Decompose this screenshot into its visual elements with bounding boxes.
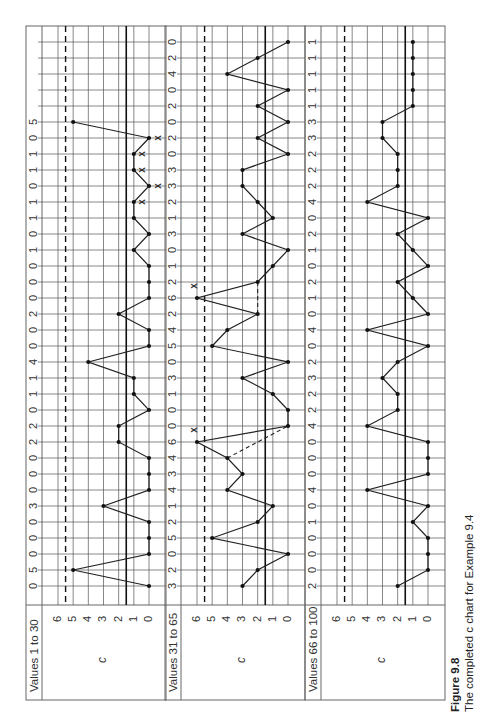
data-point — [147, 552, 151, 556]
data-point — [411, 296, 415, 300]
excluded-point-marker: x — [136, 151, 147, 157]
data-point — [117, 424, 121, 428]
data-point — [195, 440, 199, 444]
data-point — [286, 408, 290, 412]
sample-value-label: 1 — [306, 71, 318, 77]
sample-value-label: 4 — [166, 327, 178, 333]
sample-value-label: 0 — [166, 247, 178, 253]
data-point — [411, 40, 415, 44]
sample-value-label: 2 — [306, 231, 318, 237]
data-point — [411, 72, 415, 76]
sample-value-label: 2 — [27, 311, 39, 317]
data-point — [365, 488, 369, 492]
sample-value-label: 1 — [27, 375, 39, 381]
sample-value-label: 0 — [27, 135, 39, 141]
sample-value-label: 2 — [306, 359, 318, 365]
data-point — [132, 248, 136, 252]
data-point — [225, 72, 229, 76]
figure-caption: Figure 9.8 The completed c chart for Exa… — [448, 514, 476, 712]
data-point — [426, 440, 430, 444]
sample-value-label: 4 — [306, 327, 318, 333]
sample-value-label: 2 — [306, 391, 318, 397]
sample-value-label: 2 — [306, 279, 318, 285]
sample-value-label: 0 — [306, 503, 318, 509]
sample-value-label: 3 — [166, 231, 178, 237]
y-tick-label: 1 — [127, 616, 139, 622]
data-point — [426, 536, 430, 540]
data-point — [195, 296, 199, 300]
data-point — [286, 552, 290, 556]
sample-value-label: 0 — [27, 471, 39, 477]
excluded-point-marker: x — [188, 283, 199, 289]
y-axis-label: c — [95, 657, 109, 663]
sample-value-label: 0 — [27, 455, 39, 461]
data-point — [426, 472, 430, 476]
sample-value-label: 0 — [306, 343, 318, 349]
data-point — [132, 152, 136, 156]
y-tick-label: 5 — [345, 616, 357, 622]
data-series-line — [73, 122, 149, 586]
data-point — [240, 584, 244, 588]
sample-value-label: 3 — [166, 167, 178, 173]
data-point — [256, 56, 260, 60]
data-point — [225, 328, 229, 332]
data-point — [426, 504, 430, 508]
excluded-point-marker: x — [188, 427, 199, 433]
sample-value-label: 6 — [166, 439, 178, 445]
sample-value-label: 1 — [27, 391, 39, 397]
sample-value-label: 0 — [306, 215, 318, 221]
sample-value-label: 1 — [306, 247, 318, 253]
data-point — [147, 584, 151, 588]
data-point — [286, 360, 290, 364]
excluded-point-marker: x — [152, 135, 163, 141]
data-point — [286, 88, 290, 92]
sample-value-label: 0 — [27, 183, 39, 189]
data-point — [147, 536, 151, 540]
data-point — [411, 248, 415, 252]
sample-value-label: 0 — [166, 551, 178, 557]
y-tick-label: 0 — [421, 616, 433, 622]
y-tick-label: 2 — [391, 616, 403, 622]
y-tick-label: 2 — [112, 616, 124, 622]
sample-value-label: 0 — [166, 407, 178, 413]
sample-value-label: 2 — [27, 439, 39, 445]
sample-value-label: 1 — [27, 151, 39, 157]
y-tick-label: 2 — [251, 616, 263, 622]
sample-value-label: 1 — [166, 215, 178, 221]
sample-value-label: 1 — [166, 503, 178, 509]
data-point — [286, 424, 290, 428]
data-point — [380, 376, 384, 380]
sample-value-label: 0 — [166, 87, 178, 93]
data-point — [396, 584, 400, 588]
y-tick-label: 4 — [81, 616, 93, 622]
sample-value-label: 3 — [306, 135, 318, 141]
sample-value-label: 4 — [166, 455, 178, 461]
sample-value-label: 6 — [166, 295, 178, 301]
data-point — [256, 568, 260, 572]
sample-value-label: 5 — [27, 119, 39, 125]
sample-value-label: 1 — [27, 215, 39, 221]
data-point — [426, 552, 430, 556]
sample-value-label: 0 — [306, 535, 318, 541]
data-point — [271, 264, 275, 268]
data-point — [240, 472, 244, 476]
data-point — [396, 152, 400, 156]
sample-value-label: 0 — [27, 551, 39, 557]
sample-value-label: 1 — [166, 391, 178, 397]
sample-value-label: 5 — [27, 567, 39, 573]
data-point — [147, 136, 151, 140]
sample-value-label: 3 — [166, 183, 178, 189]
excluded-point-marker: x — [152, 183, 163, 189]
sample-value-label: 0 — [27, 519, 39, 525]
data-point — [132, 392, 136, 396]
data-point — [411, 104, 415, 108]
sample-value-label: 2 — [166, 519, 178, 525]
figure-description: The completed c chart for Example 9.4 — [462, 514, 476, 712]
data-point — [411, 520, 415, 524]
sample-value-label: 3 — [166, 583, 178, 589]
sample-value-label: 0 — [27, 583, 39, 589]
data-point — [117, 440, 121, 444]
sample-value-label: 1 — [27, 167, 39, 173]
sample-value-label: 0 — [306, 439, 318, 445]
data-point — [396, 184, 400, 188]
